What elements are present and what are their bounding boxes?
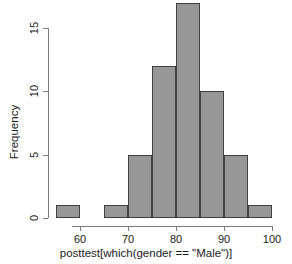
y-axis-title-label: Frequency <box>8 105 20 159</box>
x-axis-title: posttest[which(gender == "Male")] <box>0 247 292 259</box>
x-tick-label: 70 <box>122 233 134 245</box>
x-tick-label: 80 <box>170 233 182 245</box>
histogram-bar <box>128 155 152 218</box>
histogram-bar <box>176 3 200 218</box>
y-tick-label: 0 <box>28 215 40 221</box>
x-tick-label: 90 <box>218 233 230 245</box>
x-tick-label: 60 <box>74 233 86 245</box>
histogram-bar <box>200 91 224 218</box>
x-tick <box>224 226 225 231</box>
y-axis-title: Frequency <box>6 0 22 264</box>
x-axis-line <box>72 226 272 227</box>
histogram-bar <box>56 205 80 218</box>
histogram-bar <box>152 66 176 218</box>
y-tick-label: 15 <box>28 22 40 34</box>
y-tick-label: 5 <box>28 152 40 158</box>
y-tick <box>43 155 48 156</box>
histogram-bar <box>248 205 272 218</box>
x-tick <box>80 226 81 231</box>
histogram-bar <box>224 155 248 218</box>
y-axis-line <box>48 28 49 218</box>
y-tick <box>43 218 48 219</box>
x-tick-label: 100 <box>263 233 281 245</box>
plot-area: 60708090100051015 <box>0 0 292 264</box>
x-tick <box>128 226 129 231</box>
histogram-bar <box>104 205 128 218</box>
x-tick <box>272 226 273 231</box>
y-tick <box>43 91 48 92</box>
y-tick-label: 10 <box>28 85 40 97</box>
x-axis-title-label: posttest[which(gender == "Male")] <box>60 247 232 259</box>
x-tick <box>176 226 177 231</box>
y-tick <box>43 28 48 29</box>
histogram-figure: 60708090100051015 Frequency posttest[whi… <box>0 0 292 264</box>
